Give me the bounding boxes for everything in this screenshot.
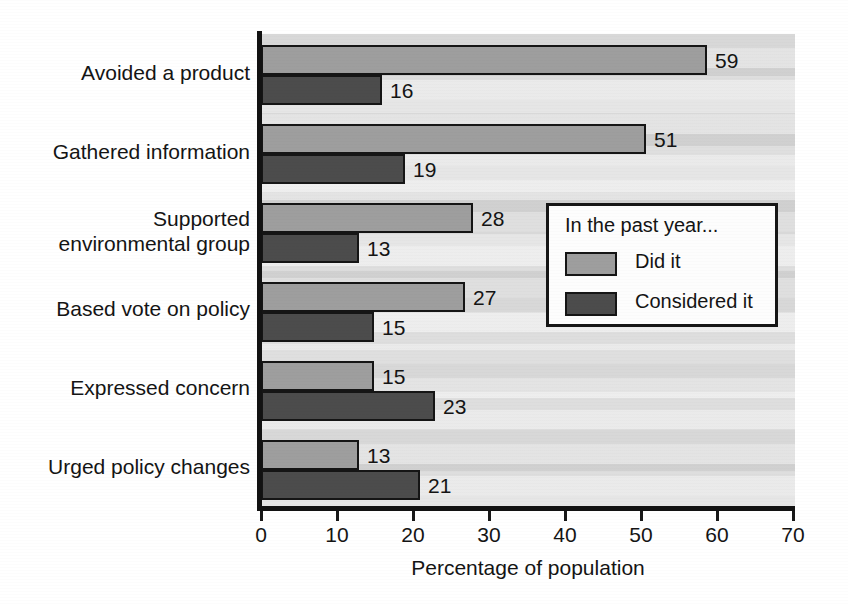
x-axis-tick	[792, 511, 795, 521]
x-axis-tick-label: 40	[535, 523, 595, 547]
bar-chart-figure: 0 10 20 30 40 50 60 70 Percentage of pop…	[0, 0, 848, 604]
bar-considered-it-based-vote-on-policy	[261, 312, 374, 342]
bar-considered-it-avoided-a-product	[261, 75, 382, 105]
legend-title: In the past year...	[565, 214, 718, 237]
legend-label-considered-it: Considered it	[635, 290, 753, 313]
x-axis-tick-label: 20	[383, 523, 443, 547]
x-axis-tick-label: 70	[763, 523, 823, 547]
bar-value-considered-it-expressed-concern: 23	[443, 395, 466, 419]
bar-value-considered-it-based-vote-on-policy: 15	[382, 316, 405, 340]
bar-value-did-it-supported-environmental-group: 28	[481, 207, 504, 231]
bar-value-did-it-gathered-information: 51	[654, 128, 677, 152]
category-label-based-vote-on-policy: Based vote on policy	[56, 296, 250, 321]
bar-did-it-expressed-concern	[261, 361, 374, 391]
x-axis-tick	[716, 511, 719, 521]
x-axis-title: Percentage of population	[261, 556, 795, 580]
y-axis-line	[257, 31, 262, 511]
category-label-avoided-a-product: Avoided a product	[81, 60, 250, 85]
bar-value-considered-it-urged-policy-changes: 21	[428, 474, 451, 498]
category-label-gathered-information: Gathered information	[53, 139, 250, 164]
x-axis-tick	[412, 511, 415, 521]
bar-value-did-it-based-vote-on-policy: 27	[473, 286, 496, 310]
x-axis-tick-label: 0	[231, 523, 291, 547]
bar-value-considered-it-supported-environmental-group: 13	[367, 237, 390, 261]
legend-swatch-considered-it	[565, 292, 617, 316]
legend: In the past year... Did it Considered it	[546, 203, 778, 327]
bar-did-it-urged-policy-changes	[261, 440, 359, 470]
x-axis-tick-label: 50	[611, 523, 671, 547]
x-axis-tick	[640, 511, 643, 521]
bar-did-it-gathered-information	[261, 124, 646, 154]
bar-did-it-based-vote-on-policy	[261, 282, 465, 312]
x-axis-tick-label: 60	[687, 523, 747, 547]
x-axis-tick	[260, 511, 263, 521]
category-label-supported-environmental-group: Supported environmental group	[59, 206, 250, 256]
x-axis-tick-label: 10	[307, 523, 367, 547]
bar-value-considered-it-avoided-a-product: 16	[390, 79, 413, 103]
bar-considered-it-gathered-information	[261, 154, 405, 184]
bar-value-did-it-urged-policy-changes: 13	[367, 444, 390, 468]
x-axis-tick	[336, 511, 339, 521]
bar-value-considered-it-gathered-information: 19	[413, 158, 436, 182]
x-axis-tick	[564, 511, 567, 521]
bar-considered-it-expressed-concern	[261, 391, 435, 421]
bar-considered-it-urged-policy-changes	[261, 470, 420, 500]
x-axis-tick-label: 30	[459, 523, 519, 547]
bar-value-did-it-expressed-concern: 15	[382, 365, 405, 389]
category-label-urged-policy-changes: Urged policy changes	[48, 454, 250, 479]
category-label-expressed-concern: Expressed concern	[70, 375, 250, 400]
bar-value-did-it-avoided-a-product: 59	[715, 49, 738, 73]
bar-did-it-avoided-a-product	[261, 45, 707, 75]
legend-label-did-it: Did it	[635, 250, 681, 273]
x-axis-tick	[488, 511, 491, 521]
bar-considered-it-supported-environmental-group	[261, 233, 359, 263]
legend-swatch-did-it	[565, 252, 617, 276]
bar-did-it-supported-environmental-group	[261, 203, 473, 233]
